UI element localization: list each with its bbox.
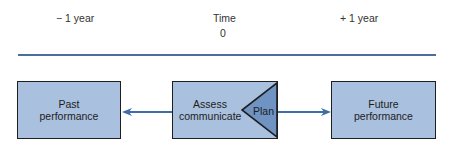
past-box-line2: performance [40, 110, 99, 122]
center-box-line1: Assess [179, 98, 241, 110]
timeline-zero-label: 0 [220, 27, 226, 39]
future-box-line2: performance [354, 110, 413, 122]
timeline-minus-one-year: − 1 year [56, 12, 94, 24]
arrowhead-left-icon [121, 106, 133, 118]
past-performance-box: Past performance [17, 81, 121, 139]
past-box-line1: Past [40, 98, 99, 110]
timeline-plus-one-year: + 1 year [340, 12, 378, 24]
timeline-axis [18, 54, 436, 56]
future-box-line1: Future [354, 98, 413, 110]
future-performance-box: Future performance [331, 81, 436, 139]
center-box-line2: communicate [179, 110, 241, 122]
timeline-time-label: Time [213, 12, 236, 24]
plan-label: Plan [253, 105, 274, 117]
